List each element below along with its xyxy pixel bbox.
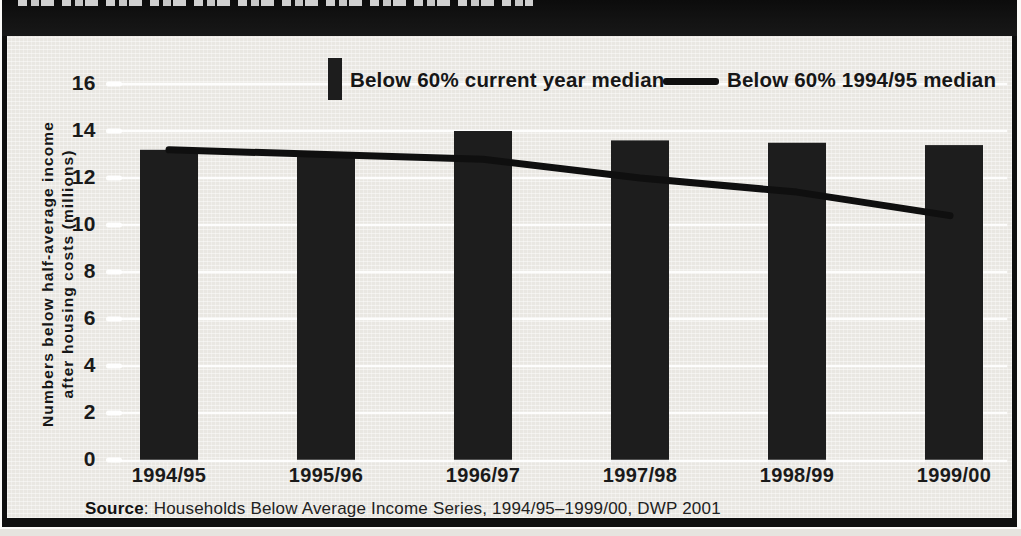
- x-tick-label-1998-99: 1998/99: [737, 464, 857, 487]
- x-tick-label-1995-96: 1995/96: [266, 464, 386, 487]
- source-label: Source: [85, 499, 144, 518]
- y-tick-marker: [106, 129, 122, 134]
- legend-bar-swatch: [328, 58, 342, 100]
- bar-1997-98: [611, 140, 669, 462]
- trend-line: [169, 150, 950, 216]
- y-tick-label-2: 2: [38, 400, 96, 424]
- y-tick-marker: [106, 223, 122, 228]
- x-tick-label-1996-97: 1996/97: [423, 464, 543, 487]
- y-tick-label-0: 0: [38, 447, 96, 471]
- y-tick-label-16: 16: [38, 71, 96, 95]
- legend-label-line: Below 60% 1994/95 median: [727, 68, 996, 92]
- source-text: : Households Below Average Income Series…: [144, 499, 721, 518]
- y-tick-marker: [106, 82, 122, 87]
- x-tick-label-1994-95: 1994/95: [109, 464, 229, 487]
- y-tick-marker: [106, 411, 122, 416]
- y-tick-label-12: 12: [38, 165, 96, 189]
- bar-1996-97: [454, 131, 512, 462]
- y-tick-label-4: 4: [38, 353, 96, 377]
- legend-label-bars: Below 60% current year median: [350, 68, 665, 92]
- figure: Numbers below half-average income after …: [0, 0, 1021, 536]
- x-tick-label-1999-00: 1999/00: [894, 464, 1014, 487]
- bar-1995-96: [297, 155, 355, 463]
- bar-1999-00: [925, 145, 983, 462]
- y-tick-marker: [106, 364, 122, 369]
- y-tick-label-14: 14: [38, 118, 96, 142]
- y-tick-label-8: 8: [38, 259, 96, 283]
- y-tick-marker: [106, 176, 122, 181]
- bar-1994-95: [140, 150, 198, 462]
- y-tick-marker: [106, 458, 122, 463]
- legend-line-swatch: [663, 78, 719, 85]
- x-tick-label-1997-98: 1997/98: [580, 464, 700, 487]
- source-line: Source: Households Below Average Income …: [85, 499, 721, 519]
- y-tick-marker: [106, 270, 122, 275]
- y-tick-marker: [106, 317, 122, 322]
- y-tick-label-10: 10: [38, 212, 96, 236]
- y-tick-label-6: 6: [38, 306, 96, 330]
